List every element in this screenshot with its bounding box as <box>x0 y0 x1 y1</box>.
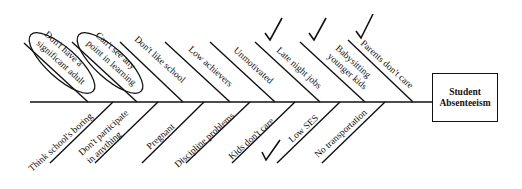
top-bone-7: Babysitting younger kids <box>300 18 373 102</box>
bottom-bone-5: Kids don't care <box>227 102 295 163</box>
effect-label-line1: Student <box>449 87 481 98</box>
cause-label: Unmotivated <box>232 45 276 86</box>
bottom-bone-2: Don't participate in anything <box>77 102 158 165</box>
bottom-bone-6: Low SES <box>262 102 340 163</box>
bottom-bone-7: No transportation <box>313 102 385 163</box>
checkmark-icon <box>262 140 280 160</box>
checkmark-icon <box>309 18 326 40</box>
cause-label: Kids don't care <box>227 116 276 162</box>
top-bone-6: Late night jobs <box>255 18 324 102</box>
cause-label: Low achievers <box>187 44 235 89</box>
cause-label: Discipline problems <box>173 110 237 169</box>
effect-label-line2: Absenteeism <box>439 98 490 109</box>
bottom-bone-4: Discipline problems <box>173 102 250 169</box>
cause-label: Low SES <box>287 113 321 145</box>
effect-box: Student Absenteeism <box>432 73 498 122</box>
checkmark-icon <box>356 14 373 38</box>
cause-label: Late night jobs <box>275 45 324 91</box>
cause-label: No transportation <box>313 107 369 159</box>
cause-label: Pregnant <box>145 121 177 151</box>
checkmark-icon <box>265 18 282 40</box>
top-bone-1: Don't have a significant adult <box>21 24 103 103</box>
